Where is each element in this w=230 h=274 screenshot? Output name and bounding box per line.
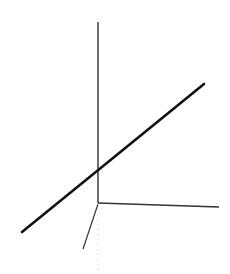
- x-axis-horizontal: [98, 203, 219, 207]
- diagram-canvas: [0, 0, 230, 274]
- y-axis-depth: [83, 204, 98, 249]
- line-in-space: [22, 84, 204, 232]
